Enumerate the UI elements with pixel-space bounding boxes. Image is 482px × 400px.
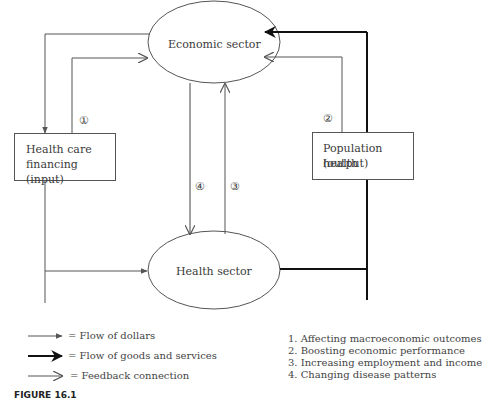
marker-4: ④: [195, 180, 205, 194]
health-care-financing-line2: financing (input): [26, 157, 115, 187]
numbered-list: 1. Affecting macroeconomic outcomes 2. B…: [288, 333, 482, 381]
legend-feedback-connection: = Feedback connection: [70, 370, 189, 382]
figure-caption: FIGURE 16.1: [14, 390, 77, 400]
legend-flow-of-goods: = Flow of goods and services: [68, 350, 217, 362]
list-item-1: 1. Affecting macroeconomic outcomes: [288, 333, 482, 345]
population-health-line2: (output): [323, 156, 368, 171]
health-care-financing-box: Health care financing (input): [14, 133, 116, 181]
list-item-2: 2. Boosting economic performance: [288, 345, 482, 357]
list-item-3: 3. Increasing employment and income: [288, 357, 482, 369]
dollar-flow-econ-to-financing: [45, 34, 150, 133]
health-sector-label: Health sector: [176, 265, 252, 279]
marker-3: ③: [230, 180, 240, 194]
legend-flow-of-dollars: = Flow of dollars: [68, 330, 155, 342]
marker-1: ①: [79, 114, 89, 128]
list-item-4: 4. Changing disease patterns: [288, 369, 482, 381]
health-care-financing-line1: Health care: [26, 142, 92, 157]
marker-2: ②: [323, 112, 333, 126]
economic-sector-label: Economic sector: [168, 38, 261, 52]
population-health-box: Population health (output): [312, 132, 414, 180]
